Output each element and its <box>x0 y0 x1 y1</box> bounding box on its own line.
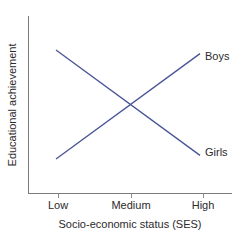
x-axis-title: Socio-economic status (SES) <box>58 218 201 230</box>
y-axis-title: Educational achievement <box>6 44 18 167</box>
x-tick-label-medium: Medium <box>111 199 150 211</box>
chart-canvas: Boys Girls Low Medium High Socio-economi… <box>0 0 247 238</box>
x-tick-label-low: Low <box>48 199 68 211</box>
series-label-girls: Girls <box>205 146 228 158</box>
series-line-girls <box>56 50 200 155</box>
chart-figure: Boys Girls Low Medium High Socio-economi… <box>0 0 247 238</box>
x-tick-label-high: High <box>192 199 215 211</box>
series-label-boys: Boys <box>205 50 230 62</box>
series-line-boys <box>56 54 200 159</box>
